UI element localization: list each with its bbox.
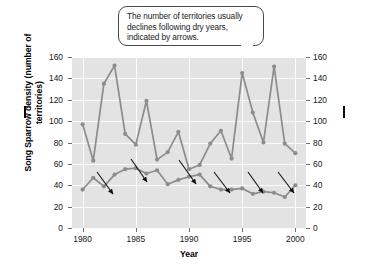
y-tick-right: [306, 121, 310, 122]
x-tick: [83, 228, 84, 232]
gridline-vertical: [189, 57, 190, 228]
x-tick-label: 1985: [121, 234, 151, 244]
plot-area: [72, 57, 306, 228]
y-tick-right: [306, 78, 310, 79]
y-tick-left: [68, 143, 72, 144]
y-tick-right: [306, 228, 310, 229]
right-axis-dash: [343, 106, 345, 118]
y-tick-label-left: 160: [41, 52, 63, 62]
y-tick-label-left: 100: [41, 116, 63, 126]
y-tick-label-left: 20: [41, 202, 63, 212]
y-tick-label-left: 60: [41, 159, 63, 169]
y-tick-label-left: 80: [41, 138, 63, 148]
y-tick-label-right: 20: [313, 202, 337, 212]
x-tick: [295, 228, 296, 232]
x-tick-label: 2000: [280, 234, 310, 244]
y-tick-left: [68, 57, 72, 58]
y-tick-label-right: 40: [313, 180, 337, 190]
y-tick-left: [68, 121, 72, 122]
gridline-vertical: [242, 57, 243, 228]
y-tick-label-right: 140: [313, 73, 337, 83]
y-tick-label-right: 80: [313, 138, 337, 148]
x-tick-label: 1980: [68, 234, 98, 244]
y-tick-left: [68, 100, 72, 101]
x-axis-title: Year: [72, 249, 306, 259]
x-tick: [136, 228, 137, 232]
y-tick-left: [68, 228, 72, 229]
y-tick-right: [306, 100, 310, 101]
gridline-vertical: [295, 57, 296, 228]
y-tick-left: [68, 207, 72, 208]
callout-text: The number of territories usually declin…: [127, 11, 256, 43]
y-tick-left: [68, 78, 72, 79]
y-tick-label-right: 160: [313, 52, 337, 62]
y-tick-label-left: 0: [41, 223, 63, 233]
y-tick-label-right: 60: [313, 159, 337, 169]
y-tick-right: [306, 164, 310, 165]
x-tick-label: 1995: [227, 234, 257, 244]
chart-root: The number of territories usually declin…: [0, 0, 369, 279]
gridline-vertical: [136, 57, 137, 228]
y-tick-label-left: 120: [41, 95, 63, 105]
y-tick-left: [68, 185, 72, 186]
y-tick-label-right: 120: [313, 95, 337, 105]
callout-box: The number of territories usually declin…: [118, 6, 264, 46]
y-tick-right: [306, 185, 310, 186]
y-tick-label-right: 0: [313, 223, 337, 233]
x-tick: [242, 228, 243, 232]
y-tick-left: [68, 164, 72, 165]
y-tick-right: [306, 143, 310, 144]
y-tick-right: [306, 207, 310, 208]
x-tick-label: 1990: [174, 234, 204, 244]
left-axis-dash: [24, 106, 26, 118]
y-tick-label-right: 100: [313, 116, 337, 126]
gridline-vertical: [83, 57, 84, 228]
callout-tail: [240, 43, 255, 55]
x-tick: [189, 228, 190, 232]
y-tick-label-left: 40: [41, 180, 63, 190]
y-tick-label-left: 140: [41, 73, 63, 83]
y-tick-right: [306, 57, 310, 58]
